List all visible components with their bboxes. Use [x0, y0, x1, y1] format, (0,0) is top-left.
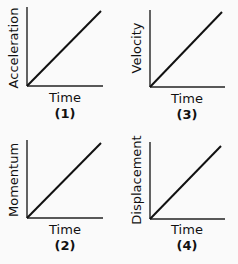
- data-line: [150, 12, 222, 87]
- x-axis-label: Time: [170, 91, 203, 106]
- graph-acceleration-vs-time: AccelerationTime(1): [6, 7, 103, 121]
- graph-number-label: (1): [55, 106, 76, 121]
- graph-number-label: (4): [177, 238, 198, 253]
- y-axis-label: Momentum: [6, 143, 21, 217]
- y-axis-label: Acceleration: [6, 8, 21, 89]
- x-axis-label: Time: [170, 222, 203, 237]
- x-axis-label: Time: [48, 222, 81, 237]
- graph-number-label: (2): [55, 238, 76, 253]
- y-axis-label: Displacement: [129, 135, 144, 224]
- graph-number-label: (3): [177, 107, 198, 122]
- data-line: [150, 146, 221, 219]
- graph-displacement-vs-time: DisplacementTime(4): [129, 135, 225, 253]
- graph-velocity-vs-time: VelocityTime(3): [129, 10, 225, 122]
- graph-momentum-vs-time: MomentumTime(2): [6, 140, 103, 253]
- data-line: [27, 143, 101, 218]
- graphs-diagram: AccelerationTime(1)VelocityTime(3)Moment…: [0, 0, 238, 264]
- y-axis-label: Velocity: [129, 22, 144, 73]
- data-line: [27, 11, 101, 86]
- x-axis-label: Time: [48, 90, 81, 105]
